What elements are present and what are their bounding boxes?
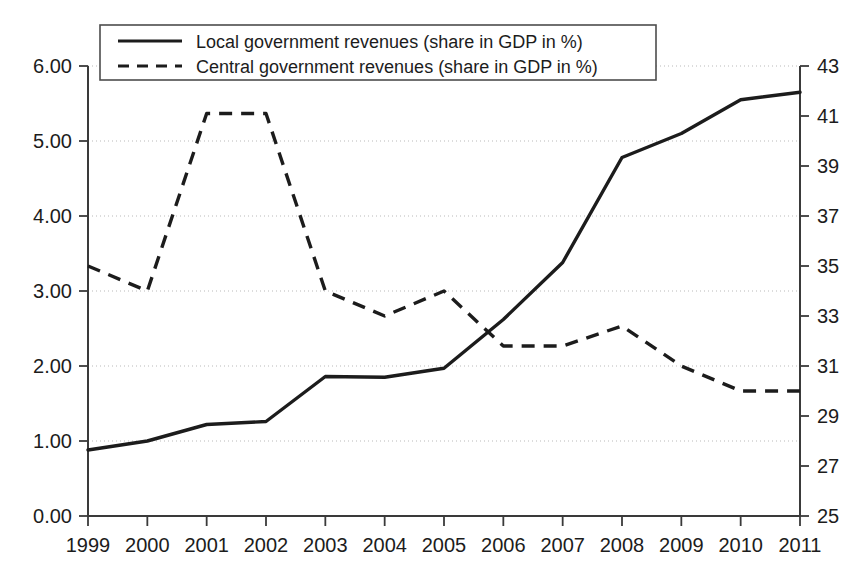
left-axis-tick-label: 4.00: [33, 205, 72, 227]
x-axis-ticks: [88, 516, 800, 526]
grid-lines: [88, 66, 800, 441]
x-axis-tick-label: 2010: [718, 534, 763, 556]
left-axis-tick-label: 1.00: [33, 430, 72, 452]
x-axis-tick-label: 2000: [125, 534, 170, 556]
x-axis-tick-label: 2004: [362, 534, 407, 556]
x-axis-tick-label: 1999: [66, 534, 111, 556]
chart-container: 0.001.002.003.004.005.006.00 25272931333…: [0, 0, 868, 585]
right-axis-tick-label: 25: [817, 505, 839, 527]
right-axis-tick-label: 29: [817, 405, 839, 427]
right-axis-tick-label: 31: [817, 355, 839, 377]
left-axis-tick-label: 0.00: [33, 505, 72, 527]
x-axis-tick-labels: 1999200020012002200320042005200620072008…: [66, 534, 822, 556]
chart-legend: Local government revenues (share in GDP …: [100, 25, 656, 80]
legend-label-local-government-revenues: Local government revenues (share in GDP …: [196, 32, 583, 52]
x-axis-tick-label: 2006: [481, 534, 526, 556]
series-line-local-government-revenues: [88, 92, 800, 450]
x-axis-tick-label: 2002: [244, 534, 289, 556]
right-axis-tick-label: 35: [817, 255, 839, 277]
series-line-central-government-revenues: [88, 114, 800, 392]
right-axis-tick-labels: 25272931333537394143: [817, 55, 839, 527]
right-axis-tick-label: 39: [817, 155, 839, 177]
x-axis-tick-label: 2003: [303, 534, 348, 556]
x-axis-tick-label: 2011: [778, 534, 821, 556]
right-axis-tick-label: 37: [817, 205, 839, 227]
left-axis-tick-label: 3.00: [33, 280, 72, 302]
left-axis-tick-label: 6.00: [33, 55, 72, 77]
left-axis-ticks: [79, 66, 88, 516]
x-axis-tick-label: 2007: [540, 534, 585, 556]
right-axis-tick-label: 33: [817, 305, 839, 327]
right-axis-tick-label: 41: [817, 105, 839, 127]
right-axis-ticks: [800, 66, 809, 516]
left-axis-tick-label: 2.00: [33, 355, 72, 377]
x-axis-tick-label: 2005: [422, 534, 467, 556]
right-axis-tick-label: 27: [817, 455, 839, 477]
legend-label-central-government-revenues: Central government revenues (share in GD…: [196, 57, 598, 77]
x-axis-tick-label: 2001: [184, 534, 229, 556]
dual-axis-line-chart: 0.001.002.003.004.005.006.00 25272931333…: [0, 0, 868, 585]
x-axis-tick-label: 2008: [600, 534, 645, 556]
right-axis-tick-label: 43: [817, 55, 839, 77]
x-axis-tick-label: 2009: [659, 534, 704, 556]
left-axis-tick-label: 5.00: [33, 130, 72, 152]
left-axis-tick-labels: 0.001.002.003.004.005.006.00: [33, 55, 72, 527]
